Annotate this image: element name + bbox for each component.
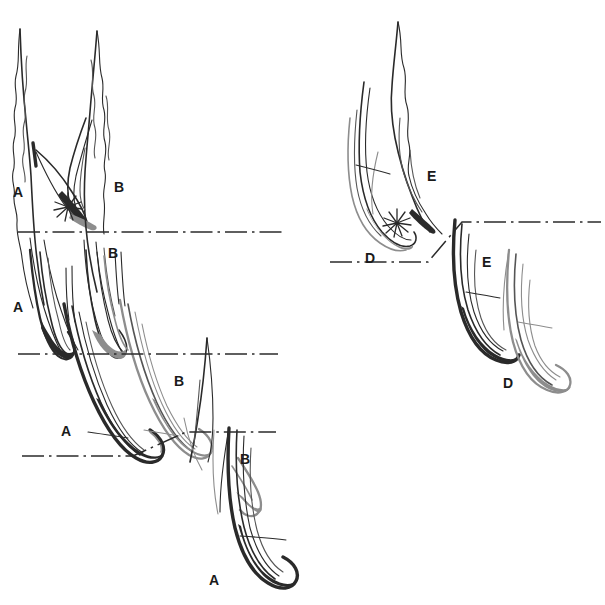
label-e-2: E [482,255,491,269]
figure-canvas: .sd{fill:none;stroke:#2a2a2a;} .sm{fill:… [0,0,605,605]
label-b-2: B [108,246,118,260]
label-e-1: E [427,169,436,183]
element-d-position-2 [503,250,571,392]
label-b-1: B [114,180,124,194]
figure-drawing: .sd{fill:none;stroke:#2a2a2a;} .sm{fill:… [0,0,605,605]
label-b-4: B [240,452,250,466]
label-d-2: D [503,376,513,390]
element-d-position-1 [348,82,416,251]
element-b-position-3 [120,300,213,459]
label-a-1: A [13,185,23,199]
label-a-2: A [13,300,23,314]
label-b-3: B [174,374,184,388]
label-a-4: A [209,573,219,587]
label-a-3: A [61,424,71,438]
impact-right [383,209,411,237]
element-e-position-1 [391,22,442,234]
label-d-1: D [365,251,375,265]
element-e-position-2 [453,220,519,362]
element-b-position-4 [184,338,262,516]
